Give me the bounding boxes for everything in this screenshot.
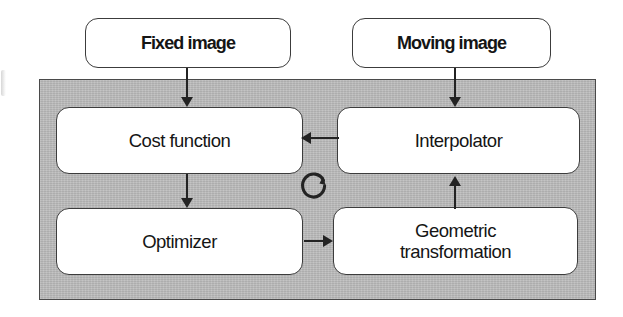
node-interpolator-label: Interpolator — [415, 130, 503, 151]
node-cost-function[interactable]: Cost function — [56, 107, 303, 174]
diagram-canvas: Fixed image Moving image Cost function I… — [0, 0, 623, 317]
arrowhead-interpolator-to-cost-function — [301, 132, 311, 144]
node-fixed-image[interactable]: Fixed image — [85, 18, 291, 68]
node-moving-image[interactable]: Moving image — [352, 18, 551, 68]
scan-edge-artifact — [1, 70, 6, 96]
node-geometric-transformation-label: Geometric transformation — [400, 220, 511, 262]
node-cost-function-label: Cost function — [129, 130, 230, 151]
node-optimizer-label: Optimizer — [142, 231, 217, 252]
arrowhead-cost-function-to-optimizer — [181, 198, 193, 208]
edge-moving-image-to-interpolator — [454, 68, 456, 99]
node-moving-image-label: Moving image — [397, 33, 506, 54]
arrowhead-fixed-image-to-cost-function — [181, 97, 193, 107]
edge-interpolator-to-cost-function — [311, 137, 339, 139]
node-geometric-transformation[interactable]: Geometric transformation — [333, 207, 578, 275]
node-optimizer[interactable]: Optimizer — [56, 208, 303, 275]
arrowhead-moving-image-to-interpolator — [449, 97, 461, 107]
arrowhead-geometric-transformation-to-interpolator — [449, 176, 461, 186]
node-interpolator[interactable]: Interpolator — [337, 107, 580, 174]
edge-geometric-transformation-to-interpolator — [454, 185, 456, 209]
edge-fixed-image-to-cost-function — [186, 68, 188, 99]
circular-loop-arrow-icon — [299, 171, 333, 207]
arrowhead-optimizer-to-geometric-transformation — [323, 235, 333, 247]
edge-optimizer-to-geometric-transformation — [304, 240, 325, 242]
node-fixed-image-label: Fixed image — [141, 33, 235, 54]
edge-cost-function-to-optimizer — [186, 174, 188, 200]
